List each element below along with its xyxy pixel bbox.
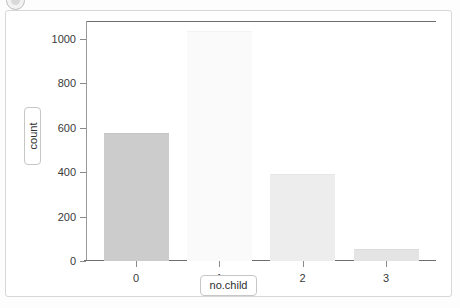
circular-badge-inner-icon <box>11 0 20 5</box>
bar-0 <box>104 133 169 261</box>
y-tick-mark <box>80 172 86 173</box>
y-tick-mark <box>80 217 86 218</box>
x-axis-title: no.child <box>200 275 258 296</box>
y-tick-label: 400 <box>58 166 76 178</box>
y-tick-mark <box>80 261 86 262</box>
y-tick-label: 600 <box>58 122 76 134</box>
y-axis-title-label: count <box>27 123 39 150</box>
y-tick-label: 800 <box>58 77 76 89</box>
y-tick-label: 0 <box>70 255 76 267</box>
bars-layer <box>86 21 436 261</box>
x-tick-label: 2 <box>300 272 306 284</box>
x-tick-mark <box>219 261 220 267</box>
plot-panel: 02004006008001000 0123 <box>86 21 436 261</box>
y-tick-label: 200 <box>58 211 76 223</box>
x-tick-mark <box>303 261 304 267</box>
bar-1 <box>187 31 252 261</box>
x-tick-label: 0 <box>133 272 139 284</box>
x-tick-label: 3 <box>383 272 389 284</box>
y-tick-label: 1000 <box>52 33 76 45</box>
bar-3 <box>354 249 419 261</box>
x-axis-title-label: no.child <box>210 279 248 291</box>
bar-2 <box>270 174 335 261</box>
x-tick-mark <box>386 261 387 267</box>
y-tick-mark <box>80 83 86 84</box>
y-tick-mark <box>80 128 86 129</box>
x-tick-mark <box>136 261 137 267</box>
y-tick-mark <box>80 39 86 40</box>
figure-card: 02004006008001000 0123 count no.child <box>5 10 452 297</box>
circular-badge-icon <box>6 0 25 10</box>
y-axis-title: count <box>24 107 41 165</box>
